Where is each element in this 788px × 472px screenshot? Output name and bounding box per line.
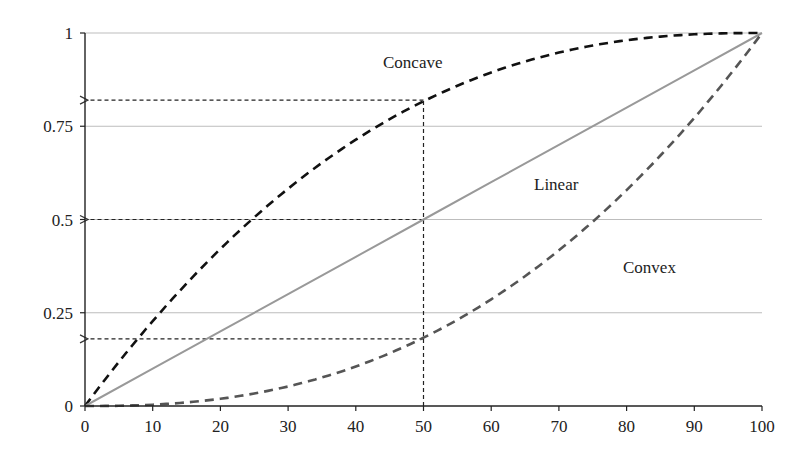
x-tick-label: 60: [483, 417, 500, 436]
x-tick-label: 50: [415, 417, 432, 436]
x-tick-label: 100: [749, 417, 775, 436]
y-tick-label: 0: [65, 397, 74, 416]
x-tick-label: 40: [347, 417, 364, 436]
x-tick-label: 80: [618, 417, 635, 436]
x-tick-label: 90: [686, 417, 703, 436]
curve-labels: Concave Linear Convex: [383, 53, 676, 277]
convex-label: Convex: [623, 258, 676, 277]
x-tick-label: 10: [144, 417, 161, 436]
y-tick-label: 1: [65, 24, 74, 43]
linear-label: Linear: [534, 175, 579, 194]
y-tick-label: 0.5: [52, 211, 73, 230]
x-tick-label: 0: [81, 417, 90, 436]
x-tick-label: 30: [280, 417, 297, 436]
concave-label: Concave: [383, 53, 442, 72]
x-tick-label: 70: [550, 417, 567, 436]
y-tick-label: 0.25: [43, 304, 73, 323]
y-tick-label: 0.75: [43, 117, 73, 136]
chart: 010203040506070809010000.250.50.751 Conc…: [0, 0, 788, 472]
x-tick-label: 20: [212, 417, 229, 436]
